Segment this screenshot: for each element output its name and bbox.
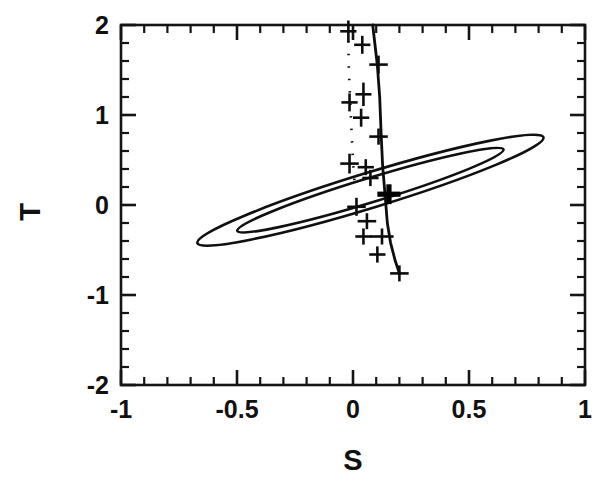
s-t-parameter-plot: -1-0.500.51 210-1-2 S T: [0, 0, 613, 487]
figure-background: [0, 0, 613, 487]
y-tick-label: 0: [95, 191, 109, 219]
x-tick-label: 0.5: [452, 395, 487, 423]
x-axis-title: S: [343, 444, 362, 476]
y-tick-label: 1: [95, 101, 109, 129]
y-tick-label: 2: [95, 11, 109, 39]
y-axis-title: T: [14, 203, 46, 221]
x-tick-label: 0: [346, 395, 360, 423]
y-tick-label: -1: [87, 281, 109, 309]
x-tick-label: -1: [110, 395, 132, 423]
x-tick-label: -0.5: [215, 395, 258, 423]
x-tick-label: 1: [578, 395, 592, 423]
y-tick-label: -2: [87, 371, 109, 399]
plot-figure: -1-0.500.51 210-1-2 S T: [0, 0, 613, 487]
